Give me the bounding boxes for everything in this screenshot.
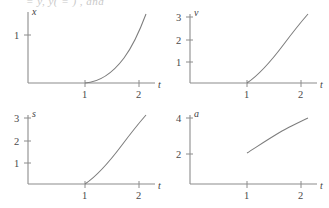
plot-s-vs-t: 3 2 1 1 2 s t [0,106,168,206]
ticks-v-plot [186,17,301,87]
curve-v-of-t [247,14,308,83]
x-axis-label-t: t [158,180,161,191]
ticks-a-plot [186,118,301,188]
y-tick-label-2: 2 [14,136,19,147]
curve-s-of-t [85,115,146,184]
plot-x-canvas: 1 1 2 x t [0,4,168,104]
y-tick-label-1: 1 [176,57,181,68]
x-axis-label-t: t [320,79,323,90]
y-tick-label-3: 3 [14,113,19,124]
plot-v-canvas: 3 2 1 1 2 v t [162,4,329,104]
x-axis-label-t: t [158,79,161,90]
x-tick-label-2: 2 [298,89,303,100]
y-axis-label-v: v [194,7,199,18]
axes-x-plot [28,12,155,83]
y-axis-label-s: s [32,108,36,119]
x-tick-label-1: 1 [244,89,249,100]
plot-s-canvas: 3 2 1 1 2 s t [0,106,168,206]
axes-v-plot [190,14,317,83]
x-tick-label-1: 1 [82,190,87,201]
x-tick-label-2: 2 [136,89,141,100]
y-axis-label-x: x [31,6,37,17]
curve-a-of-t [247,118,308,153]
y-tick-label-4: 4 [176,113,182,124]
ticks-s-plot [24,118,139,188]
y-axis-label-a: a [194,108,199,119]
plot-v-vs-t: 3 2 1 1 2 v t [162,4,329,104]
plot-a-canvas: 4 2 1 2 a t [162,106,329,206]
curve-x-of-t [85,14,146,83]
y-tick-label-1: 1 [14,30,19,41]
y-tick-label-1: 1 [14,158,19,169]
axes-a-plot [190,115,317,184]
y-tick-label-3: 3 [176,12,181,23]
y-tick-label-2: 2 [176,149,181,160]
axes-s-plot [28,115,155,184]
x-axis-label-t: t [320,180,323,191]
x-tick-label-2: 2 [136,190,141,201]
plot-a-vs-t: 4 2 1 2 a t [162,106,329,206]
y-tick-label-2: 2 [176,35,181,46]
plot-x-vs-t: 1 1 2 x t [0,4,168,104]
x-tick-label-1: 1 [82,89,87,100]
x-tick-label-2: 2 [298,190,303,201]
x-tick-label-1: 1 [244,190,249,201]
